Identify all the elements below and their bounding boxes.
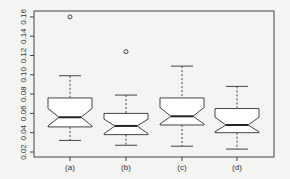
x-tick-label: (c) — [177, 163, 187, 172]
box-b — [104, 50, 148, 146]
y-tick-label: 0.12 — [19, 47, 28, 63]
y-tick-label: 0.02 — [19, 144, 28, 160]
y-tick-label: 0.14 — [19, 28, 28, 44]
notched-box — [160, 98, 204, 125]
boxplot-chart: 0.020.040.060.080.100.120.140.16 (a)(b)(… — [0, 0, 290, 179]
x-axis: (a)(b)(c)(d) — [65, 157, 242, 172]
y-tick-label: 0.10 — [19, 66, 28, 82]
notched-box — [215, 109, 259, 133]
x-tick-label: (a) — [65, 163, 75, 172]
notched-box — [48, 98, 92, 127]
y-tick-label: 0.08 — [19, 86, 28, 102]
y-tick-label: 0.16 — [19, 9, 28, 25]
box-a — [48, 15, 92, 141]
box-c — [160, 66, 204, 146]
y-tick-label: 0.06 — [19, 105, 28, 121]
x-tick-label: (b) — [121, 163, 131, 172]
box-d — [215, 86, 259, 149]
outlier-point — [124, 50, 128, 54]
box-group — [48, 15, 259, 149]
y-axis: 0.020.040.060.080.100.120.140.16 — [19, 9, 34, 160]
y-tick-label: 0.04 — [19, 124, 28, 140]
x-tick-label: (d) — [232, 163, 242, 172]
notched-box — [104, 113, 148, 134]
outlier-point — [68, 15, 72, 19]
